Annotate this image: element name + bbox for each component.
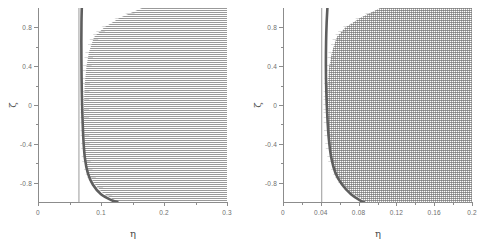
x-major-tick [472,202,473,206]
y-tick-label: 0.4 [253,63,277,70]
y-major-tick [34,66,38,67]
y-major-tick [279,105,283,106]
y-minor-tick [36,124,39,125]
x-minor-tick [302,202,303,205]
plot-area-right [283,8,472,202]
y-major-tick [279,27,283,28]
curve-overlay-left [38,8,227,202]
y-tick-label: -0.4 [253,140,277,147]
y-major-tick [279,66,283,67]
y-tick-label: -0.4 [8,140,32,147]
x-minor-tick [196,202,197,205]
y-axis-line-left [38,8,39,203]
x-tick-label: 0.1 [96,209,106,216]
y-minor-tick [36,163,39,164]
y-major-tick [34,105,38,106]
x-major-tick [227,202,228,206]
x-minor-tick [133,202,134,205]
y-axis-title-left: ζ [7,102,18,107]
x-major-tick [434,202,435,206]
y-minor-tick [281,47,284,48]
y-tick-label: 0.8 [8,24,32,31]
x-major-tick [164,202,165,206]
x-tick-label: 0 [36,209,40,216]
x-tick-label: 0.12 [390,209,403,216]
y-major-tick [34,144,38,145]
panel-right: 00.040.080.120.160.2-0.8-0.400.40.8 η ζ [245,0,490,248]
y-minor-tick [36,47,39,48]
x-axis-title-left: η [130,228,136,239]
thick-curve-right [326,8,364,202]
x-major-tick [38,202,39,206]
y-major-tick [34,183,38,184]
x-tick-label: 0.04 [314,209,327,216]
x-tick-label: 0.16 [427,209,440,216]
x-minor-tick [453,202,454,205]
y-minor-tick [281,163,284,164]
x-tick-label: 0.2 [159,209,169,216]
y-tick-label: 0.8 [253,24,277,31]
x-minor-tick [415,202,416,205]
figure-two-panel-stability-diagram: 00.10.20.3-0.8-0.400.40.8 η ζ 00.040.080… [0,0,490,248]
x-major-tick [359,202,360,206]
x-major-tick [283,202,284,206]
y-axis-title-right: ζ [252,102,263,107]
y-minor-tick [36,86,39,87]
x-axis-title-right: η [375,228,381,239]
curve-overlay-right [283,8,472,202]
x-major-tick [101,202,102,206]
x-tick-label: 0.08 [352,209,365,216]
y-axis-line-right [283,8,284,203]
panel-left: 00.10.20.3-0.8-0.400.40.8 η ζ [0,0,245,248]
x-tick-label: 0 [281,209,285,216]
y-major-tick [34,27,38,28]
y-major-tick [279,144,283,145]
x-minor-tick [70,202,71,205]
y-tick-label: -0.8 [253,179,277,186]
y-tick-label: 0.4 [8,63,32,70]
thick-curve-left [81,8,117,202]
x-tick-label: 0.3 [222,209,232,216]
x-minor-tick [378,202,379,205]
y-tick-label: -0.8 [8,179,32,186]
y-major-tick [279,183,283,184]
x-tick-label: 0.2 [467,209,477,216]
x-minor-tick [340,202,341,205]
plot-area-left [38,8,227,202]
x-major-tick [396,202,397,206]
y-minor-tick [281,124,284,125]
y-minor-tick [281,86,284,87]
x-major-tick [321,202,322,206]
